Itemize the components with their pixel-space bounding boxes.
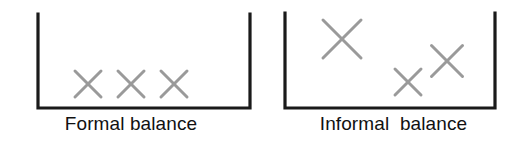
x-mark [118,71,144,97]
x-mark [395,69,421,95]
x-mark [323,20,361,58]
bracket-shape [38,14,250,108]
bracket-shape [285,13,495,108]
mark-group [75,71,187,97]
panel-caption-formal: Formal balance [0,112,262,136]
panel-caption-informal: Informal balance [262,112,525,136]
balance-diagram: Formal balance Informal balance [0,0,525,144]
x-mark [75,71,101,97]
panel-informal-balance: Informal balance [262,0,525,144]
x-mark [161,71,187,97]
x-mark [432,46,463,77]
mark-group [323,20,463,95]
panel-formal-balance: Formal balance [0,0,262,144]
